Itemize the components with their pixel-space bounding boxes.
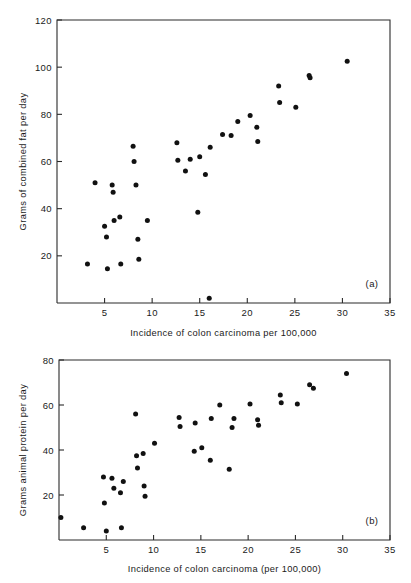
- y-tick-label: 100: [35, 62, 52, 73]
- data-point: [208, 458, 213, 463]
- data-point: [93, 180, 98, 185]
- data-point: [256, 423, 261, 428]
- panel-a: 510152025303520406080100120Incidence of …: [0, 0, 411, 340]
- y-tick-label: 80: [43, 355, 54, 366]
- y-tick-label: 40: [41, 203, 52, 214]
- data-point: [183, 168, 188, 173]
- y-tick-label: 20: [41, 250, 52, 261]
- scatter-figure: 510152025303520406080100120Incidence of …: [0, 0, 411, 583]
- data-point: [109, 476, 114, 481]
- x-axis-title: Incidence of colon carcinoma per 100,000: [130, 328, 317, 338]
- data-point: [193, 421, 198, 426]
- data-point: [102, 224, 107, 229]
- data-point-group: [58, 371, 349, 534]
- x-tick-label: 20: [242, 307, 253, 318]
- data-point: [105, 266, 110, 271]
- x-tick-label: 20: [242, 544, 253, 555]
- x-tick-label: 30: [337, 544, 348, 555]
- data-point: [131, 144, 136, 149]
- y-axis-title: Grams of combined fat per day: [18, 93, 28, 231]
- data-point: [217, 403, 222, 408]
- panel-tag: (a): [366, 278, 379, 289]
- data-point: [229, 133, 234, 138]
- y-tick-label: 60: [41, 156, 52, 167]
- data-point: [133, 183, 138, 188]
- data-point: [209, 416, 214, 421]
- data-point: [279, 400, 284, 405]
- data-point: [111, 190, 116, 195]
- data-point: [311, 386, 316, 391]
- x-tick-label: 35: [384, 544, 395, 555]
- x-tick-label: 15: [194, 307, 205, 318]
- data-point: [135, 466, 140, 471]
- data-point: [188, 157, 193, 162]
- data-point: [135, 237, 140, 242]
- data-point: [308, 75, 313, 80]
- data-point: [119, 525, 124, 530]
- panel-b: 510152025303520406080Incidence of colon …: [0, 340, 411, 583]
- data-point: [136, 257, 141, 262]
- data-point: [118, 490, 123, 495]
- y-axis-title: Grams animal protein per day: [18, 384, 28, 516]
- x-tick-label: 5: [103, 544, 109, 555]
- data-point: [207, 296, 212, 301]
- data-point: [254, 125, 259, 130]
- data-point: [141, 451, 146, 456]
- plot-frame: [59, 360, 390, 540]
- y-tick-label: 60: [43, 400, 54, 411]
- panel-b-plot: 510152025303520406080Incidence of colon …: [0, 340, 411, 583]
- data-point: [208, 145, 213, 150]
- x-tick-label: 10: [148, 544, 159, 555]
- data-point: [58, 515, 63, 520]
- data-point: [111, 486, 116, 491]
- x-tick-label: 30: [337, 307, 348, 318]
- data-point: [248, 113, 253, 118]
- data-point: [192, 449, 197, 454]
- data-point: [277, 100, 282, 105]
- data-point: [174, 140, 179, 145]
- data-point: [134, 453, 139, 458]
- data-point: [143, 494, 148, 499]
- data-point: [345, 59, 350, 64]
- x-axis-title: Incidence of colon carcinoma (per 100,00…: [128, 564, 322, 574]
- data-point: [133, 412, 138, 417]
- data-point: [293, 105, 298, 110]
- x-tick-label: 35: [384, 307, 395, 318]
- data-point: [307, 382, 312, 387]
- data-point: [178, 424, 183, 429]
- data-point-group: [85, 59, 350, 301]
- data-point: [278, 392, 283, 397]
- data-point: [177, 415, 182, 420]
- data-point: [175, 158, 180, 163]
- data-point: [104, 529, 109, 534]
- data-point: [235, 119, 240, 124]
- x-tick-label: 25: [289, 307, 300, 318]
- panel-tag: (b): [366, 515, 379, 526]
- y-tick-label: 20: [43, 490, 54, 501]
- data-point: [118, 262, 123, 267]
- plot-frame: [57, 20, 390, 303]
- data-point: [152, 441, 157, 446]
- data-point: [203, 172, 208, 177]
- data-point: [85, 262, 90, 267]
- data-point: [132, 159, 137, 164]
- data-point: [344, 371, 349, 376]
- data-point: [104, 234, 109, 239]
- data-point: [295, 401, 300, 406]
- data-point: [81, 525, 86, 530]
- data-point: [121, 479, 126, 484]
- data-point: [255, 139, 260, 144]
- data-point: [117, 214, 122, 219]
- data-point: [276, 84, 281, 89]
- data-point: [142, 484, 147, 489]
- x-tick-label: 10: [146, 307, 157, 318]
- y-tick-label: 80: [41, 109, 52, 120]
- data-point: [112, 218, 117, 223]
- data-point: [248, 401, 253, 406]
- data-point: [231, 416, 236, 421]
- x-tick-label: 25: [290, 544, 301, 555]
- x-tick-label: 15: [195, 544, 206, 555]
- data-point: [220, 132, 225, 137]
- data-point: [145, 218, 150, 223]
- x-tick-label: 5: [102, 307, 108, 318]
